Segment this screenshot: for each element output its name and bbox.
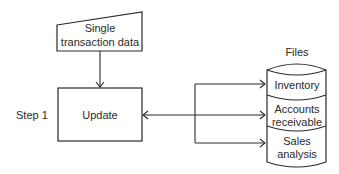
- file-segment-accounts-receivable: Accounts receivable: [272, 103, 322, 128]
- svg-text:receivable: receivable: [272, 116, 322, 128]
- svg-text:analysis: analysis: [277, 148, 317, 160]
- input-node: Single transaction data: [57, 12, 142, 51]
- update-flowchart: Single transaction data Step 1 Update Fi…: [0, 0, 339, 174]
- process-files-connector: [143, 80, 265, 147]
- files-storage: Inventory Accounts receivable Sales anal…: [267, 64, 326, 167]
- input-label-line2: transaction data: [61, 36, 140, 48]
- files-title: Files: [285, 46, 309, 58]
- file-segment-inventory: Inventory: [274, 79, 320, 91]
- step-label: Step 1: [16, 109, 48, 121]
- input-to-process-arrow: [96, 51, 104, 87]
- process-node: Update: [58, 88, 142, 141]
- svg-text:Inventory: Inventory: [274, 79, 320, 91]
- svg-text:Accounts: Accounts: [274, 103, 320, 115]
- input-label-line1: Single: [85, 22, 116, 34]
- svg-text:Sales: Sales: [283, 135, 311, 147]
- process-label: Update: [82, 109, 117, 121]
